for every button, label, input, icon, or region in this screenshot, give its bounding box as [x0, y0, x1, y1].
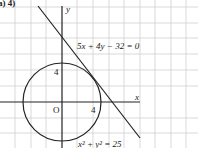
- x-tick-4-label: 4: [91, 105, 96, 115]
- circle-equation-label: x² + y² = 25: [77, 139, 122, 148]
- y-axis-label: y: [65, 4, 70, 14]
- tangent-line-circle-diagram: a) 4) y x O 4 4 5x + 4y − 32 = 0 x² + y²…: [0, 0, 198, 148]
- line-equation-label: 5x + 4y − 32 = 0: [77, 41, 140, 51]
- x-axis-label: x: [134, 92, 139, 102]
- origin-label: O: [53, 105, 60, 115]
- corner-label: a) 4): [0, 0, 15, 8]
- y-tick-4-label: 4: [54, 67, 59, 77]
- grid: [0, 0, 198, 148]
